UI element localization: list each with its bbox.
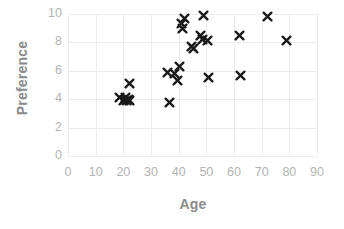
data-point-marker xyxy=(281,35,292,46)
x-tick-80: 80 xyxy=(276,165,302,179)
data-point-marker xyxy=(172,75,183,86)
gridline-vertical xyxy=(262,14,263,156)
x-tick-50: 50 xyxy=(193,165,219,179)
y-axis-title: Preference xyxy=(14,0,34,158)
data-point-marker xyxy=(235,70,246,81)
x-tick-10: 10 xyxy=(83,165,109,179)
gridline-vertical xyxy=(96,14,97,156)
data-point-marker xyxy=(202,35,213,46)
plot-area xyxy=(68,14,317,156)
gridline-horizontal xyxy=(68,99,317,100)
x-tick-0: 0 xyxy=(55,165,81,179)
x-tick-90: 90 xyxy=(304,165,330,179)
y-tick-2: 2 xyxy=(40,120,62,134)
gridline-vertical xyxy=(68,14,69,156)
gridline-horizontal xyxy=(68,128,317,129)
x-tick-70: 70 xyxy=(249,165,275,179)
data-point-marker xyxy=(124,78,135,89)
gridline-horizontal xyxy=(68,14,317,15)
data-point-marker xyxy=(124,95,135,106)
data-point-marker xyxy=(179,13,190,24)
y-tick-10: 10 xyxy=(40,6,62,20)
data-point-marker xyxy=(262,11,273,22)
scatter-chart: Preference Age 0246810 01020304050607080… xyxy=(0,0,344,229)
data-point-marker xyxy=(234,30,245,41)
x-tick-20: 20 xyxy=(110,165,136,179)
data-point-marker xyxy=(164,97,175,108)
y-tick-6: 6 xyxy=(40,63,62,77)
gridline-horizontal xyxy=(68,156,317,157)
x-tick-60: 60 xyxy=(221,165,247,179)
x-axis-title: Age xyxy=(68,196,318,212)
gridline-vertical xyxy=(317,14,318,156)
x-tick-30: 30 xyxy=(138,165,164,179)
data-point-marker xyxy=(177,23,188,34)
y-tick-4: 4 xyxy=(40,91,62,105)
data-point-marker xyxy=(198,10,209,21)
x-tick-40: 40 xyxy=(166,165,192,179)
data-point-marker xyxy=(203,72,214,83)
y-tick-8: 8 xyxy=(40,34,62,48)
data-point-marker xyxy=(174,61,185,72)
gridline-vertical xyxy=(151,14,152,156)
y-tick-0: 0 xyxy=(40,148,62,162)
gridline-horizontal xyxy=(68,71,317,72)
